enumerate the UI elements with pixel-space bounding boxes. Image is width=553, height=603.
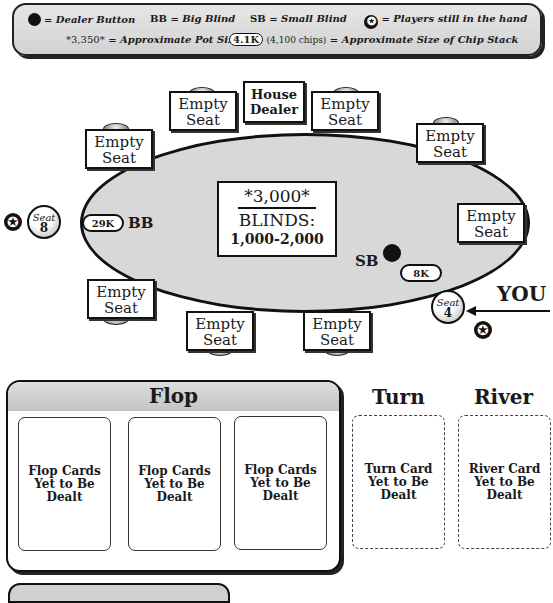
legend-star-text: = Players still in the hand (381, 13, 527, 24)
legend-panel: = Dealer Button BB = Big Blind SB = Smal… (12, 3, 542, 56)
chip-stack-seat-4: 8K (400, 264, 442, 282)
card-text: Turn Card Yet to Be Dealt (363, 463, 435, 502)
blinds-label: BLINDS: (219, 211, 335, 230)
chip-stack-seat-8: 29K (82, 214, 124, 232)
empty-seat: EmptySeat (186, 311, 254, 351)
pot-size: *3,000* (219, 186, 335, 206)
empty-seat: EmptySeat (169, 91, 237, 131)
legend-bb-text: = Big Blind (170, 13, 235, 24)
seat-number: 8 (29, 223, 59, 234)
legend-pot-text: = Approximate Pot Size (108, 34, 240, 45)
seat-text: Empty (87, 134, 151, 150)
legend-players-in-hand: ✪ = Players still in the hand (364, 13, 527, 29)
seat-text: Seat (313, 112, 377, 128)
seat-text: Empty (89, 284, 153, 300)
blinds-value: 1,000-2,000 (219, 230, 335, 248)
river-title: River (474, 385, 533, 409)
legend-dealer-button: = Dealer Button (28, 13, 135, 26)
pot-info-box: *3,000* BLINDS: 1,000-2,000 (217, 181, 337, 257)
player-seat-8[interactable]: Seat 8 (27, 205, 61, 239)
seat-text: Empty (418, 128, 482, 144)
seat-text: Empty (305, 316, 369, 332)
empty-seat: EmptySeat (85, 129, 153, 169)
seat-text: Empty (171, 96, 235, 112)
card-text: Flop Cards Yet to Be Dealt (136, 465, 214, 504)
empty-seat: EmptySeat (87, 279, 155, 319)
flop-panel: Flop Flop Cards Yet to Be Dealt Flop Car… (6, 380, 341, 572)
legend-chip-detail: (4,100 chips) (267, 35, 327, 45)
legend-sb-text: = Small Blind (269, 13, 347, 24)
empty-seat: EmptySeat (416, 123, 484, 163)
turn-card: Turn Card Yet to Be Dealt (352, 415, 445, 549)
legend-dealer-text: = Dealer Button (44, 14, 135, 25)
seat-text: Seat (459, 224, 523, 240)
legend-chip-stack: 4.1K (4,100 chips) = Approximate Size of… (229, 33, 518, 46)
legend-sb-abbr: SB (250, 13, 266, 24)
you-label: YOU (497, 282, 546, 306)
legend-pot-size: *3,350* = Approximate Pot Size (66, 34, 240, 45)
flop-card-2: Flop Cards Yet to Be Dealt (128, 417, 221, 551)
legend-chip-text: = Approximate Size of Chip Stack (330, 34, 519, 45)
card-text: River Card Yet to Be Dealt (469, 463, 541, 502)
flop-card-1: Flop Cards Yet to Be Dealt (18, 417, 111, 551)
flop-title: Flop (8, 382, 339, 411)
empty-seat: EmptySeat (457, 203, 525, 243)
next-panel (8, 583, 230, 603)
seat-number: 4 (433, 308, 463, 319)
star-icon: ✪ (364, 15, 378, 29)
seat-text: Seat (305, 332, 369, 348)
in-hand-star-icon: ✪ (4, 213, 22, 231)
legend-chip-example: 4.1K (229, 33, 263, 46)
big-blind-label: BB (128, 214, 153, 232)
legend-pot-example: *3,350* (66, 34, 105, 45)
house-dealer: House Dealer (243, 81, 305, 123)
in-hand-star-icon: ✪ (474, 321, 492, 339)
dealer-button-icon (28, 13, 41, 26)
legend-small-blind: SB = Small Blind (250, 13, 347, 24)
divider (238, 207, 316, 209)
seat-text: Empty (313, 96, 377, 112)
flop-card-3: Flop Cards Yet to Be Dealt (234, 416, 327, 550)
empty-seat: EmptySeat (303, 311, 371, 351)
player-seat-4[interactable]: Seat 4 (431, 290, 465, 324)
legend-bb-abbr: BB (150, 13, 167, 24)
seat-text: Empty (188, 316, 252, 332)
empty-seat: EmptySeat (311, 91, 379, 131)
legend-big-blind: BB = Big Blind (150, 13, 235, 24)
arrow-head-icon (466, 306, 476, 316)
card-text: Flop Cards Yet to Be Dealt (242, 464, 320, 503)
seat-text: Seat (418, 144, 482, 160)
seat-text: Empty (459, 208, 523, 224)
arrow-icon (472, 310, 550, 312)
seat-text: Seat (89, 300, 153, 316)
turn-title: Turn (372, 385, 425, 409)
card-text: Flop Cards Yet to Be Dealt (26, 465, 104, 504)
seat-text: Seat (188, 332, 252, 348)
seat-text: Seat (87, 150, 151, 166)
seat-text: Seat (171, 112, 235, 128)
river-card: River Card Yet to Be Dealt (458, 415, 551, 549)
dealer-button-icon (383, 244, 401, 262)
small-blind-label: SB (355, 252, 379, 270)
